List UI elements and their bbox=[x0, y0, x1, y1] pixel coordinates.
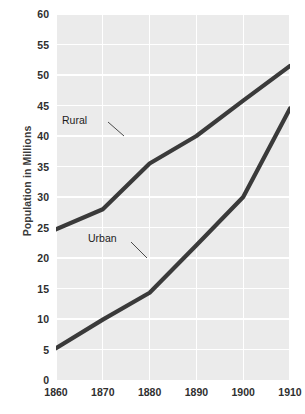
x-tick-label-1900: 1900 bbox=[232, 386, 255, 398]
population-line-chart: Population in Millions 05101520253035404… bbox=[0, 0, 305, 414]
x-tick-label-1880: 1880 bbox=[138, 386, 161, 398]
series-lines bbox=[56, 66, 290, 348]
series-label-rural: Rural bbox=[62, 114, 87, 126]
plot-svg bbox=[56, 14, 290, 380]
x-tick-label-1870: 1870 bbox=[91, 386, 114, 398]
series-line-urban bbox=[56, 109, 290, 349]
series-label-urban: Urban bbox=[88, 232, 117, 244]
x-tick-label-1860: 1860 bbox=[44, 386, 67, 398]
series-line-rural bbox=[56, 66, 290, 229]
x-tick-label-1910: 1910 bbox=[278, 386, 301, 398]
x-tick-label-1890: 1890 bbox=[185, 386, 208, 398]
urban-leader-line bbox=[131, 242, 147, 258]
bottom-margin bbox=[0, 400, 305, 414]
plot-area bbox=[56, 14, 290, 380]
rural-leader-line bbox=[108, 122, 124, 136]
